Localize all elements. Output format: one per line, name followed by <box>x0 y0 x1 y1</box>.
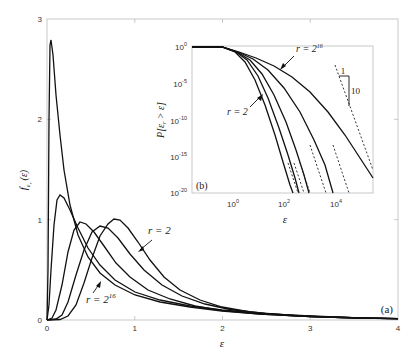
inset-curve-r-2-8 <box>192 47 333 193</box>
inset-y-tick-labels: 100 10-5 10-10 10-15 10-20 <box>170 41 187 198</box>
x-tick: 2 <box>220 324 225 333</box>
annotation-r2-text: r = 2 <box>148 224 171 236</box>
inset-annotation-r216-exp: 16 <box>317 43 323 49</box>
x-tick: 0 <box>45 324 50 333</box>
inset-x-tick: 100 <box>227 198 239 209</box>
svg-text:fεr(ε): fεr(ε) <box>17 169 33 190</box>
slope-triangle: 1 10 <box>339 66 361 106</box>
inset-y-tick: 10-15 <box>170 151 187 162</box>
annotation-r2-main: r = 2 <box>138 224 171 252</box>
main-curves <box>47 40 398 320</box>
inset-y-label-end: > ε] <box>155 102 166 122</box>
annotation-r216-main: r = 216 <box>86 281 116 305</box>
inset-y-tick: 10-5 <box>173 78 187 89</box>
svg-text:P[εr > ε]: P[εr > ε] <box>155 102 167 139</box>
inset-x-axis-label: ε <box>283 213 288 225</box>
inset-y-tick: 10-10 <box>170 115 187 126</box>
annotation-r2-inset: r = 2 <box>227 94 263 117</box>
main-axes-box <box>47 19 398 320</box>
inset-curve-r-2-4 <box>192 47 309 193</box>
inset-annotation-r216-base: r = 2 <box>296 43 317 54</box>
y-tick: 3 <box>38 15 43 24</box>
panel-label-b: (b) <box>196 180 208 192</box>
main-tick-marks <box>47 19 398 320</box>
inset-curve-r-2-2 <box>192 47 299 193</box>
y-tick: 1 <box>38 216 43 225</box>
y-label-subsub: r <box>28 182 33 184</box>
y-axis-label: fεr(ε) <box>17 169 33 190</box>
x-tick: 4 <box>396 324 401 333</box>
main-x-tick-labels: 0 1 2 3 4 <box>45 324 401 333</box>
inset-x-tick-labels: 100 102 104 <box>227 198 342 209</box>
inset-curves <box>192 47 373 193</box>
annotation-r216-exp: 16 <box>109 292 117 300</box>
inset-y-tick: 100 <box>175 41 187 52</box>
inset-x-tick: 102 <box>278 198 290 209</box>
inset-y-tick: 10-20 <box>170 187 187 198</box>
svg-text:r = 216: r = 216 <box>86 292 116 305</box>
x-axis-label: ε <box>220 337 225 349</box>
inset-annotation-r2-text: r = 2 <box>227 106 248 117</box>
panel-label-a: (a) <box>381 303 394 316</box>
inset-y-axis-label: P[εr > ε] <box>155 102 167 139</box>
y-tick: 2 <box>38 115 43 124</box>
slope-rise-label: 10 <box>351 86 361 96</box>
inset-y-label-start: P[ε <box>155 124 166 139</box>
main-y-tick-labels: 0 1 2 3 <box>38 15 43 325</box>
x-tick: 1 <box>133 324 138 333</box>
slope-run-label: 1 <box>341 66 346 76</box>
y-tick: 0 <box>38 316 43 325</box>
curve-r-2-16 <box>47 40 398 320</box>
inset-x-tick: 104 <box>330 198 342 209</box>
x-tick: 3 <box>308 324 313 333</box>
annotation-r216-inset: r = 216 <box>280 43 323 70</box>
chart-canvas: 0 1 2 3 4 0 1 2 3 ε fεr(ε) r = 2 <box>0 0 419 364</box>
y-label-arg: (ε) <box>18 169 30 180</box>
annotation-r216-base: r = 2 <box>86 293 109 305</box>
svg-text:r = 216: r = 216 <box>296 43 323 54</box>
